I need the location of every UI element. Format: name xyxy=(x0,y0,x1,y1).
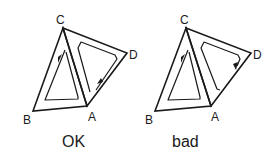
loop-cba xyxy=(45,50,78,100)
loop-cad xyxy=(78,42,117,92)
triangle-cba xyxy=(33,28,87,111)
caption-ok: OK xyxy=(62,133,85,150)
diagram-ok: C D B A OK xyxy=(23,13,138,150)
orientation-diagram: C D B A OK C D B A bad xyxy=(0,0,279,158)
vertex-label-c: C xyxy=(180,13,189,27)
triangle-cad xyxy=(186,28,251,106)
vertex-label-d: D xyxy=(129,48,138,62)
triangle-cad xyxy=(63,28,127,106)
vertex-label-c: C xyxy=(56,13,65,27)
caption-bad: bad xyxy=(172,133,199,150)
vertex-label-b: B xyxy=(145,113,153,127)
vertex-label-a: A xyxy=(88,110,96,124)
diagram-bad: C D B A bad xyxy=(145,13,262,150)
vertex-label-d: D xyxy=(253,48,262,62)
triangle-cba xyxy=(155,28,211,111)
vertex-label-a: A xyxy=(211,110,219,124)
vertex-label-b: B xyxy=(23,113,31,127)
